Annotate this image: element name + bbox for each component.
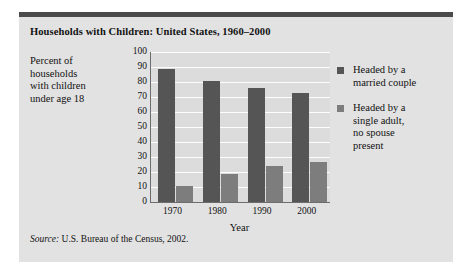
legend: Headed by amarried coupleHeaded by asing… [337, 64, 447, 166]
bar-1980-married[interactable] [203, 81, 220, 203]
y-axis-tick-label: 50 [138, 122, 148, 132]
bar-group [285, 52, 330, 202]
y-axis-tick-label: 60 [138, 107, 148, 117]
bar-2000-single[interactable] [310, 162, 327, 203]
plot-area [150, 52, 330, 203]
source-label: Source: [30, 234, 59, 244]
legend-item-label-line: Headed by a [353, 102, 447, 115]
bar-group [151, 52, 196, 202]
header-rule [19, 12, 453, 17]
figure-panel: Households with Children: United States,… [19, 12, 453, 262]
y-axis-tick-label: 40 [138, 137, 148, 147]
source-text: U.S. Bureau of the Census, 2002. [62, 234, 189, 244]
x-axis-tick-label: 1980 [195, 206, 240, 216]
y-axis-tick-label: 30 [138, 152, 148, 162]
x-axis-title: Year [150, 222, 329, 233]
bar-1990-single[interactable] [266, 166, 283, 202]
legend-item-single[interactable]: Headed by asingle adult,no spousepresent [337, 102, 447, 152]
y-axis-tick-labels: 0102030405060708090100 [123, 52, 147, 202]
y-axis-tick-label: 80 [138, 77, 148, 87]
bar-1990-married[interactable] [248, 88, 265, 202]
chart-title: Households with Children: United States,… [30, 26, 271, 37]
y-axis-caption: Percent ofhouseholdswith childrenunder a… [30, 55, 122, 105]
x-axis-tick-label: 1990 [240, 206, 285, 216]
legend-item-married[interactable]: Headed by amarried couple [337, 64, 447, 89]
source-note: Source: U.S. Bureau of the Census, 2002. [30, 234, 189, 244]
y-axis-tick-label: 100 [133, 47, 147, 57]
x-axis-tick-label: 1970 [150, 206, 195, 216]
bar-group [241, 52, 286, 202]
y-axis-caption-line: households [30, 68, 122, 81]
bar-1980-single[interactable] [221, 174, 238, 203]
y-axis-tick-label: 0 [142, 197, 147, 207]
y-axis-tick-label: 90 [138, 62, 148, 72]
legend-item-label-line: single adult, [353, 115, 447, 128]
y-axis-caption-line: with children [30, 80, 122, 93]
legend-item-label-line: no spouse [353, 127, 447, 140]
y-axis-caption-line: Percent of [30, 55, 122, 68]
bar-1970-single[interactable] [176, 186, 193, 203]
legend-swatch-icon [337, 67, 344, 74]
y-axis-tick-label: 10 [138, 182, 148, 192]
legend-item-label-line: married couple [353, 77, 447, 90]
x-axis-tick-label: 2000 [284, 206, 329, 216]
legend-swatch-icon [337, 105, 344, 112]
legend-item-label-line: present [353, 140, 447, 153]
y-axis-tick-label: 70 [138, 92, 148, 102]
y-axis-caption-line: under age 18 [30, 93, 122, 106]
bar-1970-married[interactable] [158, 69, 175, 203]
bar-2000-married[interactable] [292, 93, 309, 203]
plot-area-wrapper: 0102030405060708090100 Year 197019801990… [123, 52, 329, 210]
bar-group [196, 52, 241, 202]
legend-item-label-line: Headed by a [353, 64, 447, 77]
y-axis-tick-label: 20 [138, 167, 148, 177]
